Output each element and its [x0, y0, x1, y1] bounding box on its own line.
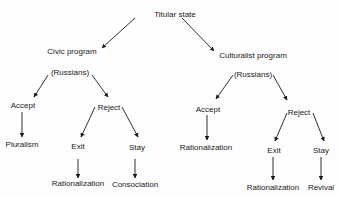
arrow-cult-stay	[313, 113, 324, 141]
node-civic-accept: Accept	[11, 101, 35, 110]
arrow-cult-reject	[273, 75, 287, 100]
arrow-civic-exit	[81, 107, 95, 137]
node-cult-exit: Exit	[267, 146, 280, 155]
node-titular-state: Titular state	[154, 10, 196, 19]
node-civic-program: Civic program	[47, 47, 96, 56]
node-cult-accept: Accept	[196, 105, 220, 114]
node-culturalist-program: Culturalist program	[219, 51, 287, 60]
node-civic-exit-rationalization: Rationalization	[52, 179, 104, 188]
node-cult-russians: (Russians)	[234, 70, 272, 79]
arrow-civic-accept	[34, 75, 48, 97]
node-cult-accept-rationalization: Rationalization	[180, 143, 232, 152]
node-civic-exit: Exit	[71, 142, 84, 151]
node-civic-consociation: Consociation	[112, 180, 158, 189]
arrow-root-civic	[102, 18, 135, 48]
node-civic-reject: Reject	[98, 103, 121, 112]
decision-tree-diagram: Titular state Civic program (Russians) A…	[0, 0, 339, 197]
arrow-cult-exit	[275, 113, 287, 141]
node-cult-reject: Reject	[288, 108, 311, 117]
node-cult-exit-rationalization: Rationalization	[247, 183, 299, 192]
arrow-cult-accept	[216, 75, 233, 99]
arrow-civic-stay	[122, 107, 138, 137]
arrow-root-cultural	[182, 18, 214, 51]
node-civic-stay: Stay	[129, 143, 145, 152]
node-civic-pluralism: Pluralism	[6, 140, 39, 149]
node-civic-russians: (Russians)	[51, 68, 89, 77]
node-cult-stay: Stay	[313, 146, 329, 155]
arrow-civic-reject	[92, 75, 108, 97]
node-cult-revival: Revival	[308, 183, 334, 192]
tree-edges	[0, 0, 339, 197]
